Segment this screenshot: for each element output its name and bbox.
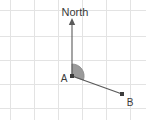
grid-group <box>0 0 146 120</box>
point-b-label: B <box>127 97 134 108</box>
bearing-diagram-svg: North A B <box>0 0 146 120</box>
bearing-diagram-canvas: North A B <box>0 0 146 120</box>
bearing-segment-ab <box>72 76 122 94</box>
north-arrow-head-icon <box>69 18 75 25</box>
point-b-dot <box>120 92 124 96</box>
point-a-dot <box>70 74 74 78</box>
north-label: North <box>62 6 89 18</box>
point-a-label: A <box>61 73 68 84</box>
